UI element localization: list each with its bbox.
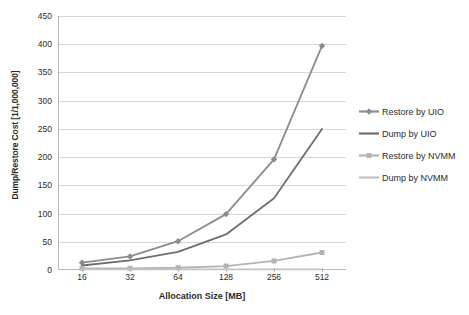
y-tick-label: 100 <box>38 209 52 219</box>
series-line <box>82 46 322 263</box>
y-tick-label: 250 <box>38 124 52 134</box>
series-restore-by-uio <box>79 43 325 266</box>
x-tick-label: 256 <box>267 272 281 282</box>
legend-item-label: Dump by NVMM <box>382 173 448 183</box>
legend-swatch-icon <box>358 128 380 139</box>
series-line <box>82 253 322 269</box>
y-axis-tick-labels: 050100150200250300350400450 <box>24 16 54 270</box>
y-tick-label: 200 <box>38 152 52 162</box>
line-chart-figure: Dump/Restore Cost [1/1,000,000] 05010015… <box>0 0 469 315</box>
x-tick-label: 512 <box>315 272 329 282</box>
legend-item[interactable]: Dump by UIO <box>358 128 469 139</box>
legend-item[interactable]: Restore by NVMM <box>358 150 469 161</box>
y-axis-title-label: Dump/Restore Cost [1/1,000,000] <box>10 70 20 199</box>
legend-item[interactable]: Dump by NVMM <box>358 172 469 183</box>
series-restore-by-nvmm <box>80 250 325 271</box>
y-tick-label: 150 <box>38 180 52 190</box>
data-point <box>320 250 325 255</box>
x-tick-label: 64 <box>173 272 182 282</box>
legend-swatch-icon <box>358 172 380 183</box>
legend-swatch-icon <box>358 150 380 161</box>
data-point <box>319 43 325 49</box>
x-axis-title: Allocation Size [MB] <box>58 291 346 301</box>
data-point <box>272 258 277 263</box>
x-axis-tick-labels: 163264128256512 <box>58 272 346 286</box>
legend-item-label: Dump by UIO <box>382 129 437 139</box>
y-tick-label: 400 <box>38 39 52 49</box>
legend-swatch-icon <box>358 106 380 117</box>
legend-item-label: Restore by NVMM <box>382 151 456 161</box>
y-tick-label: 450 <box>38 11 52 21</box>
y-tick-label: 300 <box>38 96 52 106</box>
y-tick-label: 0 <box>47 265 52 275</box>
plot-area <box>58 16 346 270</box>
plot-block: Dump/Restore Cost [1/1,000,000] 05010015… <box>0 0 352 315</box>
chart-legend: Restore by UIODump by UIORestore by NVMM… <box>352 0 469 315</box>
y-axis-title: Dump/Restore Cost [1/1,000,000] <box>6 0 24 270</box>
x-tick-label: 32 <box>125 272 134 282</box>
series-layer <box>58 16 346 270</box>
y-tick-label: 350 <box>38 67 52 77</box>
series-line <box>82 129 322 266</box>
data-point <box>127 253 133 259</box>
series-dump-by-uio <box>82 129 322 266</box>
x-tick-label: 128 <box>219 272 233 282</box>
x-tick-label: 16 <box>77 272 86 282</box>
legend-item-label: Restore by UIO <box>382 107 444 117</box>
legend-item[interactable]: Restore by UIO <box>358 106 469 117</box>
y-tick-label: 50 <box>43 237 52 247</box>
